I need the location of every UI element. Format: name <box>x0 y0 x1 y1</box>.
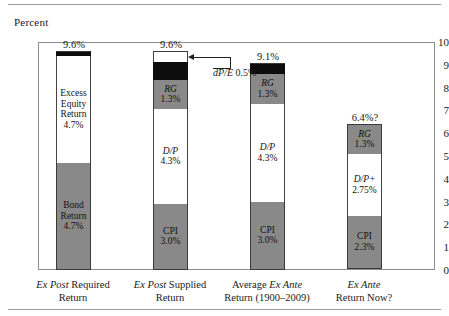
bar-3: 9.1%RG1.3%D/P4.3%CPI3.0% <box>250 63 285 270</box>
segment-value: 1.3% <box>258 89 278 100</box>
dpe-leader-horizontal-bottom <box>213 68 231 69</box>
segment-label: RG <box>261 78 274 89</box>
dpe-leader-horizontal-top <box>193 57 231 58</box>
x-label-line2: Return Now? <box>298 291 430 304</box>
bar-total-label-1: 9.6% <box>42 39 106 51</box>
bar-2: 9.6%RG1.3%D/P4.3%CPI3.0% <box>153 51 188 270</box>
segment-value: 4.7% <box>64 221 84 232</box>
bar-4: 6.4%?RG1.3%D/P+2.75%CPI2.3% <box>347 124 382 270</box>
segment-label: D/P <box>163 146 178 157</box>
segment-label: RG <box>358 129 371 140</box>
x-label-prefix: Average <box>232 279 269 290</box>
bar-3-segment-3: D/P4.3% <box>250 104 285 202</box>
bar-1-segment-3: BondReturn4.7% <box>56 163 91 270</box>
bar-4-segment-1: RG1.3% <box>347 124 382 154</box>
bar-3-segment-4: CPI3.0% <box>250 202 285 270</box>
bar-2-segment-4: D/P4.3% <box>153 109 188 204</box>
bar-total-label-3: 9.1% <box>236 51 300 63</box>
bar-total-label-4: 6.4%? <box>333 112 397 124</box>
bar-1: 9.6%ExcessEquityReturn4.7%BondReturn4.7% <box>56 51 91 270</box>
segment-value: 2.3% <box>355 242 375 253</box>
bar-2-segment-1 <box>153 51 188 62</box>
segment-value: 3.0% <box>161 236 181 247</box>
segment-label: Bond <box>63 200 84 211</box>
segment-label: CPI <box>163 226 178 237</box>
bar-2-segment-2 <box>153 62 188 80</box>
x-label-italic-term: Ex Post <box>134 279 166 290</box>
x-axis-label-4: Ex AnteReturn Now? <box>298 278 430 304</box>
bar-4-segment-3: CPI2.3% <box>347 216 382 268</box>
x-label-italic-term: Ex Ante <box>348 279 381 290</box>
bar-4-segment-2: D/P+2.75% <box>347 154 382 217</box>
segment-label: D/P+ <box>354 174 376 185</box>
dpe-annotation-value: 0.5% <box>233 67 256 78</box>
segment-label: Equity <box>61 99 86 110</box>
top-divider-rule <box>8 4 441 5</box>
segment-value: 4.3% <box>258 153 278 164</box>
segment-label: CPI <box>357 231 372 242</box>
segment-value: 2.75% <box>352 185 377 196</box>
y-axis-title: Percent <box>14 16 48 28</box>
segment-label: Excess <box>60 88 86 99</box>
bar-3-segment-2: RG1.3% <box>250 74 285 104</box>
segment-value: 1.3% <box>161 94 181 105</box>
segment-label: RG <box>164 84 177 95</box>
bar-1-segment-2: ExcessEquityReturn4.7% <box>56 56 91 163</box>
segment-value: 4.3% <box>161 156 181 167</box>
x-label-line1: Ex Ante <box>298 278 430 291</box>
x-label-italic-term: Ex Post <box>36 279 68 290</box>
segment-value: 1.3% <box>355 139 375 150</box>
segment-label: CPI <box>260 225 275 236</box>
bar-2-segment-5: CPI3.0% <box>153 204 188 270</box>
bottom-divider-rule <box>8 309 441 310</box>
segment-label: Return <box>61 109 87 120</box>
segment-label: D/P <box>260 142 275 153</box>
segment-value: 4.7% <box>64 120 84 131</box>
segment-value: 3.0% <box>258 235 278 246</box>
segment-label: Return <box>61 211 87 222</box>
bar-2-segment-3: RG1.3% <box>153 80 188 109</box>
dpe-arrow-head-icon <box>188 54 194 60</box>
bar-total-label-2: 9.6% <box>139 39 203 51</box>
